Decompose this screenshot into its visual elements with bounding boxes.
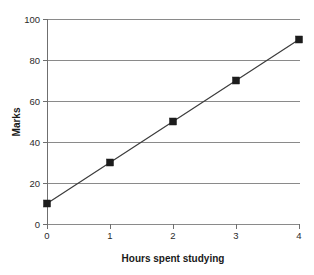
line-chart: 100 80 60 40 20 0 0 1 2 3 4 — [0, 0, 314, 275]
data-point — [170, 118, 177, 125]
x-tick-label-1: 1 — [107, 230, 112, 241]
x-tick-label-2: 2 — [170, 230, 175, 241]
x-tick-label-4: 4 — [296, 230, 301, 241]
y-tick-label-40: 40 — [29, 137, 40, 148]
data-point — [296, 36, 303, 43]
x-tick-label-0: 0 — [44, 230, 49, 241]
y-tick-label-100: 100 — [24, 14, 40, 25]
y-tick-label-80: 80 — [29, 55, 40, 66]
data-point — [233, 77, 240, 84]
x-axis-title: Hours spent studying — [122, 253, 225, 264]
data-point — [44, 200, 51, 207]
x-tick-label-3: 3 — [233, 230, 238, 241]
chart-canvas: 100 80 60 40 20 0 0 1 2 3 4 — [0, 0, 314, 275]
y-tick-label-20: 20 — [29, 178, 40, 189]
y-axis-title: Marks — [11, 107, 22, 136]
y-tick-label-0: 0 — [35, 219, 40, 230]
data-point — [107, 159, 114, 166]
y-tick-label-60: 60 — [29, 96, 40, 107]
